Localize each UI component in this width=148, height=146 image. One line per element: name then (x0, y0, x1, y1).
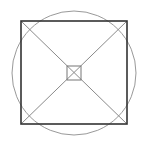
geometry-diagram (0, 0, 148, 146)
